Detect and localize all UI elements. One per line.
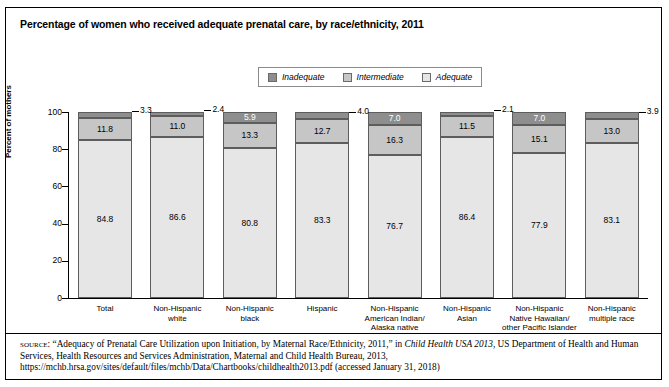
bar-segment-intermediate: 11.8 — [78, 118, 132, 140]
figure-panel: Percentage of women who received adequat… — [5, 7, 662, 380]
stacked-bar[interactable]: 77.915.17.0 — [512, 112, 566, 298]
bar-segment-adequate: 76.7 — [368, 155, 422, 298]
bar-segment-inadequate: 7.0 — [368, 112, 422, 125]
callout-leader-line — [494, 110, 501, 111]
source-note: source: “Adequacy of Prenatal Care Utili… — [20, 339, 650, 374]
legend-label-adequate: Adequate — [436, 72, 472, 82]
legend-swatch-adequate — [422, 73, 431, 82]
bar-segment-inadequate: 3.9 — [585, 112, 639, 119]
callout-value: 3.3 — [140, 106, 152, 115]
bar-segment-adequate: 83.3 — [295, 143, 349, 298]
bar-segment-inadequate: 5.9 — [223, 112, 277, 123]
bar-segment-inadequate: 2.1 — [440, 112, 494, 116]
stacked-bar[interactable]: 83.312.74.0 — [295, 112, 349, 298]
source-italic-title: Child Health USA 2013 — [405, 339, 493, 349]
y-tick-label: 100 — [18, 108, 62, 117]
bar-segment-adequate: 77.9 — [512, 153, 566, 298]
legend-label-inadequate: Inadequate — [282, 72, 325, 82]
x-category-label: Non-Hispanicmultiple race — [560, 304, 664, 323]
section-divider — [6, 333, 661, 334]
callout-leader-line — [204, 110, 211, 111]
plot-area: 84.811.83.386.611.02.480.813.35.983.312.… — [68, 112, 647, 298]
stacked-bar[interactable]: 86.611.02.4 — [150, 112, 204, 298]
stacked-bar[interactable]: 84.811.83.3 — [78, 112, 132, 298]
bar-segment-adequate: 83.1 — [585, 143, 639, 298]
callout-leader-line — [639, 112, 646, 113]
source-prefix: source: — [20, 339, 50, 349]
stacked-bar[interactable]: 86.411.52.1 — [440, 112, 494, 298]
source-text-a: “Adequacy of Prenatal Care Utilization u… — [50, 339, 404, 349]
callout-leader-line — [349, 112, 356, 113]
stacked-bar[interactable]: 83.113.03.9 — [585, 112, 639, 298]
bar-segment-adequate: 86.6 — [150, 137, 204, 298]
bar-segment-intermediate: 15.1 — [512, 125, 566, 153]
x-axis-line — [68, 298, 648, 299]
bar-segment-intermediate: 13.3 — [223, 123, 277, 148]
legend-label-intermediate: Intermediate — [357, 72, 404, 82]
callout-value: 4.0 — [357, 107, 369, 116]
legend-swatch-intermediate — [343, 73, 352, 82]
bar-segment-inadequate: 3.3 — [78, 112, 132, 118]
bar-segment-inadequate: 7.0 — [512, 112, 566, 125]
chart-title: Percentage of women who received adequat… — [20, 18, 424, 30]
stacked-bar[interactable]: 76.716.37.0 — [368, 112, 422, 298]
y-tick-mark — [62, 298, 68, 299]
y-tick-label: 60 — [18, 182, 62, 191]
chart-legend: Inadequate Intermediate Adequate — [258, 67, 482, 87]
bar-segment-intermediate: 13.0 — [585, 119, 639, 143]
y-tick-label: 0 — [18, 294, 62, 303]
y-tick-label: 20 — [18, 256, 62, 265]
legend-swatch-inadequate — [268, 73, 277, 82]
legend-item-adequate: Adequate — [422, 72, 472, 82]
callout-leader-line — [132, 111, 139, 112]
callout-value: 2.1 — [502, 105, 514, 114]
y-tick-label: 40 — [18, 219, 62, 228]
bar-segment-intermediate: 11.0 — [150, 116, 204, 136]
bar-segment-intermediate: 12.7 — [295, 119, 349, 143]
callout-value: 3.9 — [647, 107, 659, 116]
bar-segment-adequate: 80.8 — [223, 148, 277, 298]
bar-segment-inadequate: 2.4 — [150, 112, 204, 116]
stacked-bar[interactable]: 80.813.35.9 — [223, 112, 277, 298]
legend-item-inadequate: Inadequate — [268, 72, 325, 82]
bar-segment-adequate: 86.4 — [440, 137, 494, 298]
bar-segment-intermediate: 16.3 — [368, 125, 422, 155]
legend-item-intermediate: Intermediate — [343, 72, 404, 82]
callout-value: 2.4 — [212, 105, 224, 114]
y-axis-label: Percent of mothers — [4, 85, 13, 158]
y-tick-label: 80 — [18, 145, 62, 154]
bar-segment-inadequate: 4.0 — [295, 112, 349, 119]
bar-segment-adequate: 84.8 — [78, 140, 132, 298]
bar-segment-intermediate: 11.5 — [440, 116, 494, 137]
